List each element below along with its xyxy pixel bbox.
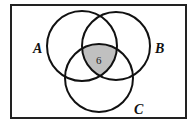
venn-diagram: A B C 6 xyxy=(0,0,190,125)
intersection-value: 6 xyxy=(96,54,102,66)
label-b: B xyxy=(154,41,164,56)
label-c: C xyxy=(134,102,144,117)
label-a: A xyxy=(32,41,42,56)
